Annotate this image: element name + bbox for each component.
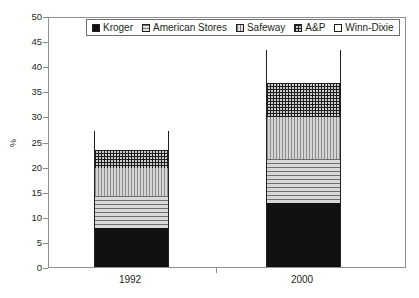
legend-item-label: Kroger xyxy=(103,22,133,33)
bar-segment xyxy=(95,131,168,150)
legend-item-label: Winn-Dixie xyxy=(345,22,393,33)
y-axis-tick-label: 30 xyxy=(22,112,42,122)
bar-segment xyxy=(95,228,168,267)
legend-item[interactable]: American Stores xyxy=(142,22,227,33)
y-axis-tick-labels: 05101520253035404550 xyxy=(12,0,42,298)
legend-swatch-icon xyxy=(334,24,342,32)
legend-item[interactable]: A&P xyxy=(294,22,325,33)
legend-item-label: A&P xyxy=(305,22,325,33)
y-axis-tick-mark xyxy=(43,268,48,269)
y-axis-tick-label: 25 xyxy=(22,138,42,148)
legend-swatch-icon xyxy=(142,24,150,32)
y-axis-tick-label: 15 xyxy=(22,188,42,198)
bar-segment xyxy=(95,196,168,228)
legend-swatch-icon xyxy=(92,24,100,32)
y-axis-tick-label: 10 xyxy=(22,213,42,223)
bar-1992 xyxy=(94,131,169,267)
bar-segment xyxy=(267,83,340,118)
chart-legend: KrogerAmerican StoresSafewayA&PWinn-Dixi… xyxy=(86,19,400,36)
bar-segment xyxy=(95,150,168,168)
bar-2000 xyxy=(266,50,341,267)
y-axis-tick-label: 20 xyxy=(22,163,42,173)
y-axis-tick-label: 45 xyxy=(22,37,42,47)
plot-area xyxy=(48,17,406,268)
x-axis-tick-label: 1992 xyxy=(100,274,160,285)
legend-item-label: Safeway xyxy=(247,22,285,33)
bar-segment xyxy=(267,117,340,158)
legend-swatch-icon xyxy=(294,24,302,32)
stacked-bar-chart: % 05101520253035404550 KrogerAmerican St… xyxy=(0,0,419,298)
bar-segment xyxy=(95,168,168,196)
bar-segment xyxy=(267,159,340,204)
y-axis-tick-label: 35 xyxy=(22,87,42,97)
y-axis-tick-label: 50 xyxy=(22,12,42,22)
legend-item[interactable]: Safeway xyxy=(236,22,285,33)
bar-segment xyxy=(267,50,340,83)
legend-item-label: American Stores xyxy=(153,22,227,33)
legend-swatch-icon xyxy=(236,24,244,32)
y-axis-tick-label: 5 xyxy=(22,238,42,248)
x-axis-tick-mark xyxy=(216,268,217,273)
bar-segment xyxy=(267,203,340,267)
y-axis-tick-label: 0 xyxy=(22,263,42,273)
x-axis-tick-label: 2000 xyxy=(272,274,332,285)
legend-item[interactable]: Kroger xyxy=(92,22,133,33)
y-axis-tick-label: 40 xyxy=(22,62,42,72)
legend-item[interactable]: Winn-Dixie xyxy=(334,22,393,33)
